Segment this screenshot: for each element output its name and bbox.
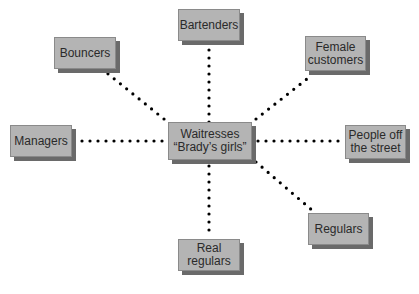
- node-label: Managers: [14, 135, 67, 148]
- node-bouncers: Bouncers: [54, 37, 116, 69]
- node-center-waitresses: Waitresses “Brady’s girls”: [168, 122, 252, 160]
- edge-regulars: [256, 162, 313, 211]
- node-label-line1: Female: [308, 41, 363, 54]
- node-regulars: Regulars: [308, 213, 369, 245]
- center-label-line2: “Brady’s girls”: [173, 141, 246, 154]
- node-label-line2: regulars: [187, 255, 230, 268]
- node-label-line2: the street: [349, 142, 403, 155]
- edge-female-customers: [256, 75, 312, 119]
- node-label: Bartenders: [180, 19, 239, 32]
- node-real-regulars: Real regulars: [178, 239, 240, 271]
- node-managers: Managers: [10, 125, 72, 157]
- node-female-customers: Female customers: [305, 36, 366, 71]
- node-people-off-street: People off the street: [345, 125, 406, 159]
- node-label-line2: customers: [308, 54, 363, 67]
- node-label: Bouncers: [60, 47, 111, 60]
- node-bartenders: Bartenders: [178, 9, 240, 41]
- node-label: Regulars: [314, 223, 362, 236]
- edge-bouncers: [107, 73, 164, 119]
